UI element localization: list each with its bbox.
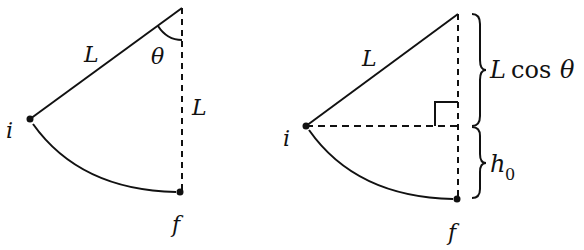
pendulum-diagram: L θ L i f L i f L cos θ h 0 bbox=[0, 0, 584, 250]
left-initial-label: i bbox=[6, 118, 13, 143]
right-final-dot bbox=[454, 196, 461, 203]
upper-brace-cos: cos bbox=[511, 56, 551, 84]
right-swing-arc bbox=[309, 130, 453, 199]
right-angle-marker bbox=[435, 102, 458, 126]
left-final-dot bbox=[177, 189, 184, 196]
upper-brace-label: L cos θ bbox=[489, 56, 575, 84]
lower-brace bbox=[472, 127, 486, 198]
right-panel: L i f L cos θ h 0 bbox=[283, 14, 575, 245]
left-vertical-label: L bbox=[191, 95, 207, 120]
left-panel: L θ L i f bbox=[6, 8, 207, 237]
left-swing-arc bbox=[33, 124, 176, 192]
left-rod-label: L bbox=[83, 42, 99, 67]
left-initial-dot bbox=[27, 116, 34, 123]
theta-angle-arc bbox=[158, 26, 182, 40]
upper-brace-theta: θ bbox=[560, 56, 575, 84]
upper-brace-L: L bbox=[489, 56, 506, 84]
left-final-label: f bbox=[170, 212, 184, 237]
upper-brace bbox=[472, 14, 486, 126]
right-rod-label: L bbox=[361, 46, 377, 71]
lower-brace-h: h bbox=[490, 150, 505, 178]
right-initial-dot bbox=[303, 123, 310, 130]
theta-label: θ bbox=[151, 44, 164, 69]
right-final-label: f bbox=[446, 220, 460, 245]
right-initial-label: i bbox=[283, 126, 290, 151]
lower-brace-label: h 0 bbox=[490, 150, 515, 184]
lower-brace-subscript: 0 bbox=[505, 165, 515, 184]
